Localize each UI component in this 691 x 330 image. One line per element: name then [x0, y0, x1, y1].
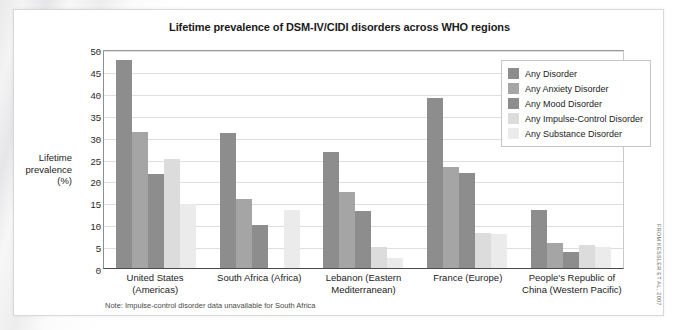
legend-label: Any Disorder [525, 69, 577, 79]
y-axis-tick-mark [97, 95, 101, 96]
legend-item[interactable]: Any Mood Disorder [508, 96, 643, 111]
legend-item[interactable]: Any Substance Disorder [508, 126, 643, 141]
bar [459, 173, 475, 268]
y-axis-tick-mark [97, 73, 101, 74]
bar [323, 152, 339, 269]
y-axis-tick-mark [97, 117, 101, 118]
bar [164, 159, 180, 269]
chart-title: Lifetime prevalence of DSM-IV/CIDI disor… [14, 21, 665, 33]
y-axis-tick-mark [97, 51, 101, 52]
legend-swatch-icon [508, 68, 519, 79]
y-axis-title-line-1: Lifetime [20, 152, 72, 164]
bar [116, 60, 132, 268]
y-axis-title-line-3: (%) [20, 175, 72, 187]
y-axis-tick-mark [97, 182, 101, 183]
legend-item[interactable]: Any Anxiety Disorder [508, 81, 643, 96]
y-axis-title-line-2: prevalence [20, 164, 72, 176]
bar [531, 210, 547, 268]
bar [547, 243, 563, 268]
bar [252, 225, 268, 268]
chart-card: Lifetime prevalence of DSM-IV/CIDI disor… [13, 9, 664, 316]
x-axis-labels: United States (Americas)South Africa (Af… [103, 272, 624, 295]
bar [371, 247, 387, 268]
x-axis-label: Lebanon (Eastern Mediterranean) [311, 272, 415, 295]
legend-label: Any Anxiety Disorder [525, 84, 609, 94]
legend-swatch-icon [508, 113, 519, 124]
legend-item[interactable]: Any Impulse-Control Disorder [508, 111, 643, 126]
bar [220, 133, 236, 268]
y-axis-tick-mark [97, 161, 101, 162]
legend-item[interactable]: Any Disorder [508, 66, 643, 81]
bar [563, 252, 579, 268]
bar-group [312, 51, 416, 268]
y-axis: 05101520253035404550 [69, 50, 101, 270]
legend-label: Any Substance Disorder [525, 129, 622, 139]
chart-legend: Any DisorderAny Anxiety DisorderAny Mood… [501, 60, 651, 147]
bar [475, 233, 491, 268]
legend-label: Any Mood Disorder [525, 99, 602, 109]
source-credit: FROM KESSLER ET AL, 2007 [656, 224, 662, 306]
bar [595, 247, 611, 268]
y-axis-title: Lifetime prevalence (%) [20, 152, 72, 187]
bar [443, 167, 459, 268]
bar-group [208, 51, 312, 268]
legend-swatch-icon [508, 128, 519, 139]
x-axis-label: France (Europe) [416, 272, 520, 295]
legend-swatch-icon [508, 98, 519, 109]
bar-group [104, 51, 208, 268]
bar [339, 192, 355, 268]
x-axis-label: United States (Americas) [103, 272, 207, 295]
bar [284, 210, 300, 268]
bar [491, 234, 507, 268]
bar [148, 174, 164, 268]
y-axis-tick-mark [97, 226, 101, 227]
y-axis-tick-mark [97, 270, 101, 271]
bar [355, 211, 371, 268]
screenshot-root: Lifetime prevalence of DSM-IV/CIDI disor… [0, 0, 691, 330]
x-axis-label: People's Republic of China (Western Paci… [520, 272, 624, 295]
bar [579, 245, 595, 268]
y-axis-tick-mark [97, 248, 101, 249]
legend-swatch-icon [508, 83, 519, 94]
bar [387, 258, 403, 268]
y-axis-tick-mark [97, 139, 101, 140]
bar [180, 204, 196, 268]
legend-label: Any Impulse-Control Disorder [525, 114, 643, 124]
chart-note: Note: Impulse-control disorder data unav… [105, 301, 316, 310]
bar [236, 199, 252, 268]
bar [132, 132, 148, 268]
bar [427, 98, 443, 268]
y-axis-tick-mark [97, 204, 101, 205]
x-axis-label: South Africa (Africa) [207, 272, 311, 295]
